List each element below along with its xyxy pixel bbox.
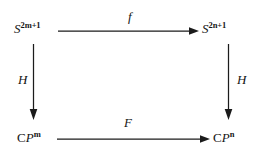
arrow-bottom-F-head bbox=[200, 135, 210, 143]
arrow-right-H-head bbox=[225, 109, 233, 120]
node-bottom-right: CPn bbox=[213, 131, 234, 144]
node-bottom-left-superscript: m bbox=[34, 129, 41, 139]
node-bottom-left: CPm bbox=[17, 131, 41, 144]
commutative-diagram: S2m+1 S2n+1 CPm CPn f F H H bbox=[0, 0, 264, 152]
arrow-top-f bbox=[58, 27, 199, 35]
arrow-label-right-H: H bbox=[237, 73, 246, 86]
arrow-bottom-F bbox=[57, 135, 210, 143]
node-top-left-superscript: 2m+1 bbox=[21, 20, 41, 30]
arrow-label-bottom-F: F bbox=[124, 116, 132, 129]
node-bottom-right-base-p: P bbox=[222, 130, 230, 145]
arrow-left-H-head bbox=[30, 109, 38, 120]
node-top-left: S2m+1 bbox=[14, 22, 41, 35]
arrow-label-left-H: H bbox=[18, 73, 27, 86]
node-top-right: S2n+1 bbox=[202, 22, 226, 35]
arrow-label-top-f: f bbox=[128, 10, 132, 23]
arrow-top-f-head bbox=[189, 27, 199, 35]
node-bottom-right-superscript: n bbox=[230, 129, 235, 139]
arrow-right-H bbox=[225, 44, 233, 120]
arrow-left-H bbox=[30, 44, 38, 120]
node-bottom-right-base-c: C bbox=[213, 130, 222, 145]
node-top-right-superscript: 2n+1 bbox=[209, 20, 227, 30]
node-bottom-left-base-p: P bbox=[26, 130, 34, 145]
node-bottom-left-base-c: C bbox=[17, 130, 26, 145]
